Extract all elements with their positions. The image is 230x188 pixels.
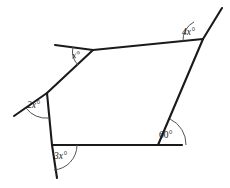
angle-label-4x: 4x°	[182, 28, 195, 38]
angle-label-2x: 2x°	[27, 101, 40, 111]
edge-top	[93, 39, 203, 50]
angle-label-3x: 3x°	[54, 152, 67, 162]
ray-top-right-extension	[203, 8, 222, 39]
edge-lower-left	[47, 93, 52, 145]
diagram-canvas	[0, 0, 230, 188]
geometry-diagram: 4x° x° 2x° 3x° 60°	[0, 0, 230, 188]
angle-label-x: x°	[72, 51, 81, 61]
edge-upper-left	[47, 50, 93, 93]
ray-bottom-left-extension	[52, 145, 57, 178]
angle-label-60: 60°	[159, 131, 173, 141]
